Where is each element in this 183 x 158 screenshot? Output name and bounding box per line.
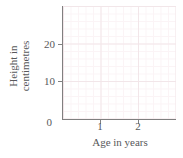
x-axis-title: Age in years bbox=[58, 136, 182, 148]
y-axis-title-line-2: centimetres bbox=[19, 4, 31, 128]
y-tick-mark-10 bbox=[58, 81, 63, 82]
y-tick-mark-20 bbox=[58, 44, 63, 45]
y-tick-label-20: 20 bbox=[29, 39, 55, 50]
x-axis-line bbox=[62, 119, 176, 120]
plot-area bbox=[63, 6, 176, 119]
y-tick-label-10: 10 bbox=[29, 76, 55, 87]
x-tick-label-2: 2 bbox=[128, 121, 148, 132]
y-axis-title-line-1: Height in bbox=[7, 4, 19, 128]
y-axis-title: Height in centimetres bbox=[7, 4, 31, 128]
x-tick-label-1: 1 bbox=[90, 121, 110, 132]
y-axis-line bbox=[62, 6, 63, 120]
chart-figure: 20 10 0 1 2 Age in years Height in centi… bbox=[0, 0, 183, 158]
